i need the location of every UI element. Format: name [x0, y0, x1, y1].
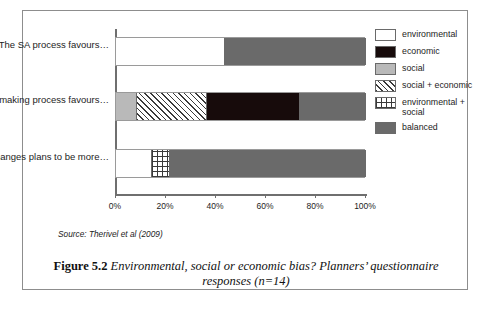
legend-item: social + economic: [375, 80, 475, 92]
bar-segment-social: [116, 93, 136, 120]
legend-label: social + economic: [402, 80, 472, 90]
legend-item: balanced: [375, 122, 475, 134]
chart-legend: environmental economic social social + e…: [375, 29, 475, 139]
legend-swatch-environmental: [375, 29, 396, 41]
legend-item: economic: [375, 46, 475, 58]
source-note: Source: Therivel et al (2009): [58, 229, 163, 239]
bar-segment-economic: [206, 93, 299, 120]
category-label: The SA process favours…: [0, 39, 109, 51]
bar-row: SA changes plans to be more…: [115, 149, 365, 178]
legend-swatch-environmental-social: [375, 97, 396, 109]
bar-segment-balanced: [224, 38, 367, 65]
legend-label: economic: [402, 46, 440, 56]
bar-segment-balanced: [169, 150, 366, 177]
chart-plot-area: 0% 20% 40% 60% 80% 100% The SA process f…: [115, 29, 367, 194]
legend-swatch-economic: [375, 46, 396, 58]
bar-track: [115, 92, 365, 121]
x-axis-tick: [315, 194, 316, 198]
x-axis-tick-label: 60%: [256, 201, 273, 211]
legend-label: environmental + social: [402, 97, 475, 117]
legend-swatch-balanced: [375, 122, 396, 134]
x-axis-tick-label: 20%: [156, 201, 173, 211]
figure-caption: Figure 5.2 Environmental, social or econ…: [41, 259, 451, 289]
bar-segment-environmental: [116, 38, 224, 65]
x-axis-tick-label: 100%: [354, 201, 376, 211]
bar-segment-social-economic: [136, 93, 206, 120]
x-axis-tick-label: 80%: [306, 201, 323, 211]
x-axis-tick: [115, 194, 116, 198]
legend-swatch-social-economic: [375, 80, 396, 92]
x-axis-tick: [165, 194, 166, 198]
legend-label: balanced: [402, 122, 438, 132]
bar-segment-environmental-social: [151, 150, 169, 177]
figure-caption-label: Figure 5.2: [54, 259, 108, 273]
bar-row: The SA process favours…: [115, 37, 365, 66]
bar-segment-environmental: [116, 150, 151, 177]
x-axis-tick: [365, 194, 366, 198]
legend-swatch-social: [375, 63, 396, 75]
legend-item: social: [375, 63, 475, 75]
bar-row: The plan-making process favours…: [115, 92, 365, 121]
x-axis-tick: [215, 194, 216, 198]
legend-item: environmental: [375, 29, 475, 41]
bar-track: [115, 37, 365, 66]
bar-segment-balanced: [299, 93, 366, 120]
x-axis-tick-label: 0%: [109, 201, 121, 211]
x-axis-tick: [265, 194, 266, 198]
legend-label: social: [402, 63, 425, 73]
x-axis-tick-label: 40%: [206, 201, 223, 211]
category-label: SA changes plans to be more…: [0, 151, 109, 163]
category-label: The plan-making process favours…: [0, 94, 109, 106]
x-axis-line: [115, 194, 367, 196]
legend-item: environmental + social: [375, 97, 475, 117]
legend-label: environmental: [402, 29, 457, 39]
figure-frame: 0% 20% 40% 60% 80% 100% The SA process f…: [22, 10, 468, 290]
bar-track: [115, 149, 365, 178]
figure-caption-text: Environmental, social or economic bias? …: [111, 259, 439, 288]
